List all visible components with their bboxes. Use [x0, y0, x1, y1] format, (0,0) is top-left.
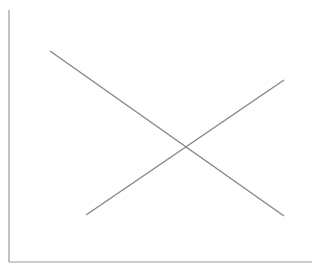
chart-canvas	[0, 0, 312, 270]
line-chart	[0, 0, 312, 270]
series-decreasing-line	[50, 51, 284, 216]
